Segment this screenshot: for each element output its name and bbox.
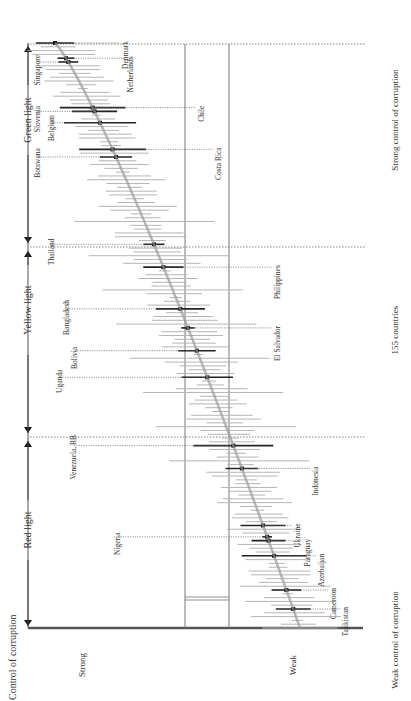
country-label-bolivia: Bolivia <box>70 346 79 369</box>
country-label-costa-rica: Costa Rica <box>214 147 223 180</box>
label-strong: Strong <box>77 653 87 678</box>
country-label-belgium: Belgium <box>47 115 56 141</box>
country-label-azerbaijan: Azerbaijan <box>317 554 326 587</box>
country-label-bangladesh: Bangladesh <box>62 300 71 335</box>
label-strong-control: Strong control of corruption <box>390 69 400 171</box>
label-weak: Weak <box>288 654 298 675</box>
chart-title: Control of corruption <box>7 614 18 700</box>
country-label-venezuela-rb: Venezuela, RB <box>69 435 78 480</box>
country-label-chile: Chile <box>197 105 206 122</box>
country-label-paraguay: Paraguay <box>303 538 312 566</box>
corruption-chart: TajikistanCameroonAzerbaijanParaguayUkra… <box>0 0 411 701</box>
country-label-singapore: Singapore <box>33 54 42 85</box>
country-label-thailand: Thailand <box>47 238 56 265</box>
country-label-nigeria: Nigeria <box>113 532 122 555</box>
country-label-ukraine: Ukraine <box>293 523 302 548</box>
label-country-count: 155 countries <box>390 305 400 354</box>
country-label-uganda: Uganda <box>55 369 64 393</box>
country-label-slovenia: Slovenia <box>33 105 42 132</box>
country-label-indonesia: Indonesia <box>311 466 320 496</box>
label-weak-control: Weak control of corruption <box>390 591 400 689</box>
country-label-el-salvador: El Salvador <box>273 325 282 361</box>
zone-label-yellow: Yellow light <box>22 285 33 334</box>
country-label-denmark: Denmark <box>121 41 130 69</box>
country-label-botswana: Botswana <box>33 148 42 178</box>
country-label-tajikistan: Tajikistan <box>341 607 350 637</box>
zone-label-green: Green light <box>22 97 33 142</box>
zone-label-red: Red light <box>22 511 33 548</box>
country-label-cameroon: Cameroon <box>329 588 338 619</box>
country-label-philippines: Philippines <box>273 265 282 299</box>
